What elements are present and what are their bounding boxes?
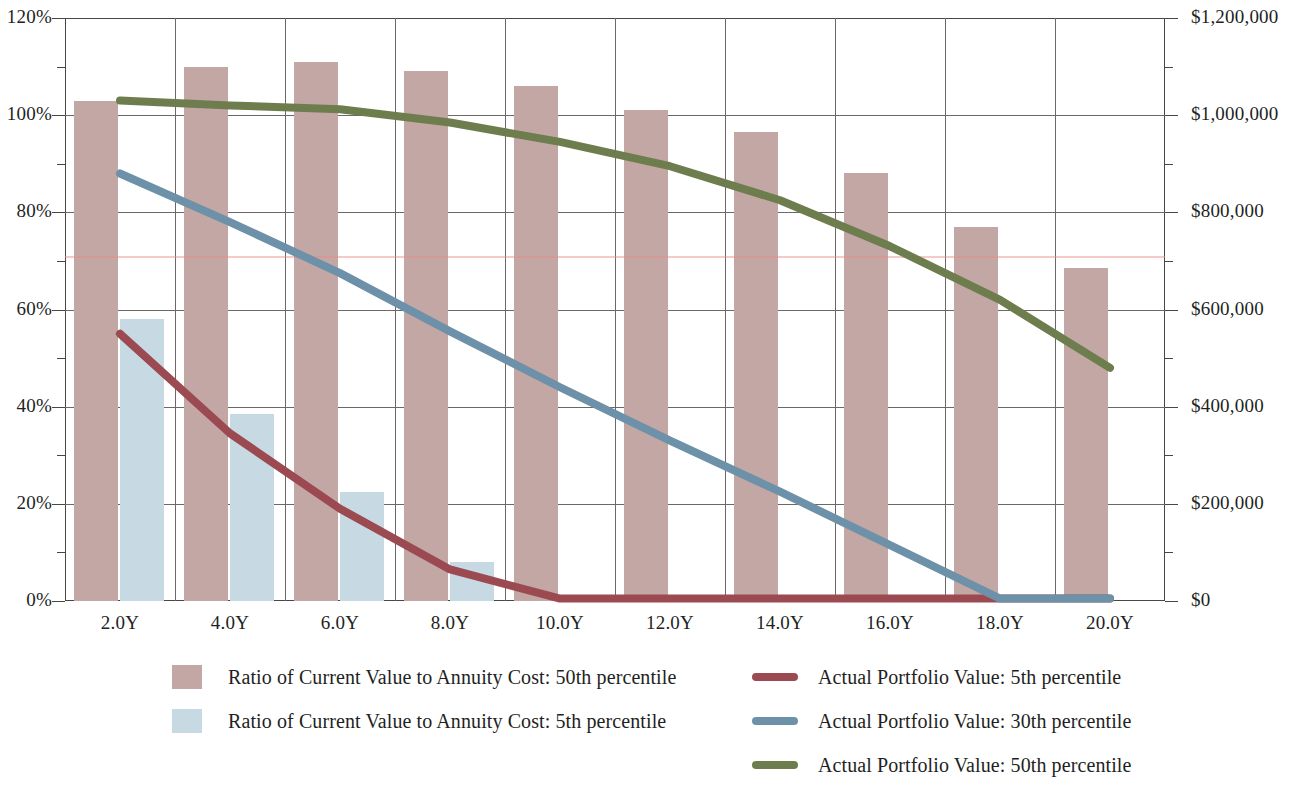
tick-right-major <box>1165 115 1178 116</box>
tick-right-major <box>1165 504 1178 505</box>
tick-left-major <box>52 212 65 213</box>
tick-left-minor <box>57 358 65 359</box>
x-axis-label-14.0Y: 14.0Y <box>756 612 804 634</box>
legend-item-label: Actual Portfolio Value: 50th percentile <box>818 754 1131 777</box>
tick-right-major <box>1165 407 1178 408</box>
tick-right-minor <box>1165 261 1173 262</box>
y-axis-left-label: 60% <box>17 298 52 320</box>
y-axis-left-label: 120% <box>7 6 52 28</box>
y-axis-right-label: $1,000,000 <box>1191 103 1279 125</box>
tick-right-major <box>1165 601 1178 602</box>
y-axis-right-label: $1,200,000 <box>1191 6 1279 28</box>
tick-right-minor <box>1165 455 1173 456</box>
legend-item[interactable]: Actual Portfolio Value: 50th percentile <box>752 743 1131 787</box>
tick-left-major <box>52 601 65 602</box>
tick-left-major <box>52 504 65 505</box>
legend-item-label: Ratio of Current Value to Annuity Cost: … <box>228 710 666 733</box>
legend-swatch-line-icon <box>752 673 798 681</box>
y-axis-right-label: $600,000 <box>1191 298 1264 320</box>
y-axis-right-label: $0 <box>1191 589 1210 611</box>
tick-right-minor <box>1165 552 1173 553</box>
legend-swatch-box-icon <box>172 709 202 733</box>
legend-swatch-box-icon <box>172 665 202 689</box>
x-axis-label-12.0Y: 12.0Y <box>646 612 694 634</box>
legend-item-label: Actual Portfolio Value: 5th percentile <box>818 666 1121 689</box>
line-series-layer <box>65 18 1165 601</box>
y-axis-left-label: 0% <box>26 589 52 611</box>
legend-item[interactable]: Ratio of Current Value to Annuity Cost: … <box>172 655 676 699</box>
line-portfolio-50th <box>120 101 1110 368</box>
tick-right-major <box>1165 212 1178 213</box>
legend-item-label: Ratio of Current Value to Annuity Cost: … <box>228 666 676 689</box>
x-axis-label-10.0Y: 10.0Y <box>536 612 584 634</box>
tick-left-minor <box>57 164 65 165</box>
legend-item-label: Actual Portfolio Value: 30th percentile <box>818 710 1131 733</box>
chart-legend: Ratio of Current Value to Annuity Cost: … <box>0 655 1314 787</box>
y-axis-left-label: 20% <box>17 492 52 514</box>
x-axis-label-4.0Y: 4.0Y <box>211 612 249 634</box>
line-portfolio-30th <box>120 174 1110 599</box>
legend-column-lines: Actual Portfolio Value: 5th percentileAc… <box>752 655 1131 787</box>
x-axis-label-8.0Y: 8.0Y <box>431 612 469 634</box>
legend-item[interactable]: Ratio of Current Value to Annuity Cost: … <box>172 699 676 743</box>
tick-left-major <box>52 310 65 311</box>
tick-right-major <box>1165 18 1178 19</box>
y-axis-left-label: 100% <box>7 103 52 125</box>
tick-left-minor <box>57 455 65 456</box>
tick-right-minor <box>1165 358 1173 359</box>
tick-right-minor <box>1165 67 1173 68</box>
legend-item[interactable]: Actual Portfolio Value: 30th percentile <box>752 699 1131 743</box>
plot-area <box>65 18 1165 601</box>
tick-left-minor <box>57 552 65 553</box>
line-portfolio-5th <box>120 334 1110 599</box>
x-axis-label-6.0Y: 6.0Y <box>321 612 359 634</box>
x-axis-label-16.0Y: 16.0Y <box>866 612 914 634</box>
tick-right-major <box>1165 310 1178 311</box>
legend-column-bars: Ratio of Current Value to Annuity Cost: … <box>172 655 676 743</box>
y-axis-right-label: $400,000 <box>1191 395 1264 417</box>
legend-swatch-line-icon <box>752 761 798 769</box>
x-axis-label-18.0Y: 18.0Y <box>976 612 1024 634</box>
x-axis-label-20.0Y: 20.0Y <box>1086 612 1134 634</box>
y-axis-right-label: $800,000 <box>1191 200 1264 222</box>
legend-item[interactable]: Actual Portfolio Value: 5th percentile <box>752 655 1131 699</box>
legend-swatch-line-icon <box>752 717 798 725</box>
tick-left-major <box>52 115 65 116</box>
y-axis-left-label: 40% <box>17 395 52 417</box>
tick-right-minor <box>1165 164 1173 165</box>
tick-left-major <box>52 407 65 408</box>
y-axis-right-label: $200,000 <box>1191 492 1264 514</box>
tick-left-major <box>52 18 65 19</box>
tick-left-minor <box>57 261 65 262</box>
y-axis-left-label: 80% <box>17 200 52 222</box>
chart-container: 0%20%40%60%80%100%120% $0$200,000$400,00… <box>0 0 1314 787</box>
x-axis-label-2.0Y: 2.0Y <box>101 612 139 634</box>
tick-left-minor <box>57 67 65 68</box>
